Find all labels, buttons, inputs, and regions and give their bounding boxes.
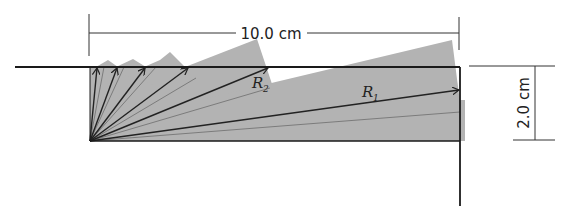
height-dimension (469, 66, 555, 140)
r1-label-main: R (361, 83, 373, 101)
r2-label-sub: 2 (262, 84, 269, 94)
wedge-group (90, 39, 465, 141)
r2-label-main: R (251, 74, 263, 92)
height-dimension-label: 2.0 cm (515, 77, 533, 128)
r1-label-sub: 1 (373, 93, 379, 103)
slab-reflection-diagram: 10.0 cm 2.0 cm R 2 R 1 (0, 0, 573, 219)
diagram-canvas: 10.0 cm 2.0 cm R 2 R 1 (0, 0, 573, 219)
width-dimension-label: 10.0 cm (240, 25, 301, 43)
